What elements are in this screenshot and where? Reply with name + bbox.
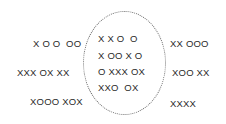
outside-left-row-1: X O O OO <box>33 39 81 49</box>
inside-row-3: O XXX OX <box>98 67 145 77</box>
outside-right-row-2: XOO XX <box>172 68 210 78</box>
inside-row-1: X X O O <box>98 34 138 44</box>
set-boundary-ellipse <box>83 11 166 115</box>
outside-right-row-3: XXXX <box>170 99 196 109</box>
outside-left-row-2: XXX OX XX <box>17 68 70 78</box>
inside-row-2: X OO X O <box>98 51 142 61</box>
inside-row-4: XXO OX <box>98 83 138 93</box>
outside-right-row-1: XX OOO <box>170 39 209 49</box>
outside-left-row-3: XOOO XOX <box>30 97 83 107</box>
